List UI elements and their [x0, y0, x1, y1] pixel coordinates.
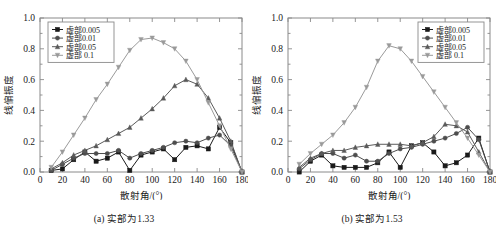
- x-tick-label: 120: [416, 175, 431, 185]
- data-point: [331, 164, 335, 168]
- legend-label: 虚部0.01: [436, 33, 466, 43]
- x-tick-label: 20: [58, 175, 68, 185]
- data-point: [398, 165, 402, 169]
- x-tick-label: 0: [286, 175, 291, 185]
- data-point: [116, 131, 121, 136]
- legend-label: 虚部 0.1: [66, 50, 94, 60]
- y-tick-label: 0.6: [23, 75, 35, 85]
- data-point: [161, 41, 166, 46]
- series-3: [297, 44, 492, 175]
- x-tick-label: 140: [438, 175, 453, 185]
- data-point: [342, 156, 346, 160]
- y-tick-label: 1.0: [23, 13, 35, 23]
- data-point: [161, 145, 165, 149]
- x-tick-label: 100: [145, 175, 160, 185]
- plot-area-a: 0204060801001201401601800.00.20.40.60.81…: [0, 0, 248, 200]
- x-tick-label: 100: [393, 175, 408, 185]
- x-tick-label: 140: [190, 175, 205, 185]
- legend-label: 虚部 0.1: [436, 50, 464, 60]
- data-point: [105, 156, 109, 160]
- x-tick-label: 0: [38, 175, 43, 185]
- y-axis-label: 线偏振度: [3, 75, 14, 115]
- data-point: [172, 83, 177, 88]
- series-2: [297, 122, 492, 174]
- data-point: [387, 151, 391, 155]
- x-tick-label: 180: [483, 175, 496, 185]
- y-tick-label: 0.4: [271, 106, 283, 116]
- x-tick-label: 180: [235, 175, 248, 185]
- data-point: [477, 138, 481, 142]
- series-2: [49, 77, 244, 174]
- data-point: [184, 77, 189, 82]
- data-point: [116, 148, 120, 152]
- legend-label: 虚部0.01: [66, 33, 96, 43]
- data-point: [94, 143, 99, 148]
- legend-label: 虚部0.005: [66, 25, 100, 35]
- data-point: [432, 139, 436, 143]
- data-point: [465, 153, 469, 157]
- y-tick-label: 0.0: [23, 167, 35, 177]
- legend-label: 虚部0.05: [66, 42, 96, 52]
- legend: 虚部0.005虚部0.01虚部0.05虚部 0.1: [418, 22, 484, 62]
- x-axis-label: 散射角/(°): [368, 190, 411, 200]
- legend-marker: [55, 27, 59, 31]
- legend-marker: [425, 27, 429, 31]
- x-tick-label: 80: [125, 175, 135, 185]
- x-tick-label: 40: [328, 175, 338, 185]
- legend-marker: [55, 36, 59, 40]
- y-tick-label: 0.8: [23, 44, 35, 54]
- data-point: [443, 164, 447, 168]
- data-point: [217, 116, 222, 121]
- data-point: [128, 156, 132, 160]
- data-point: [94, 159, 98, 163]
- chart-panel-b: 0204060801001201401601800.00.20.40.60.81…: [248, 0, 496, 235]
- series-line: [299, 127, 490, 172]
- data-point: [195, 78, 200, 83]
- panel-b-caption: (b) 实部为1.53: [248, 211, 496, 225]
- data-point: [465, 129, 470, 134]
- x-tick-label: 40: [80, 175, 90, 185]
- data-point: [364, 159, 368, 163]
- data-point: [398, 147, 402, 151]
- legend: 虚部0.005虚部0.01虚部0.05虚部 0.1: [48, 22, 114, 62]
- figure-container: 0204060801001201401601800.00.20.40.60.81…: [0, 0, 496, 235]
- data-point: [375, 59, 380, 64]
- x-tick-label: 60: [351, 175, 361, 185]
- series-line: [299, 124, 490, 172]
- y-tick-label: 0.0: [271, 167, 283, 177]
- y-tick-label: 0.8: [271, 44, 283, 54]
- plot-area-b: 0204060801001201401601800.00.20.40.60.81…: [248, 0, 496, 200]
- legend-marker: [425, 36, 429, 40]
- data-point: [206, 101, 211, 106]
- data-point: [364, 85, 369, 90]
- series-group: [297, 44, 492, 175]
- data-point: [376, 159, 380, 163]
- series-line: [51, 127, 242, 172]
- data-point: [173, 141, 177, 145]
- data-point: [195, 141, 199, 145]
- data-point: [139, 151, 143, 155]
- data-point: [60, 160, 65, 165]
- data-point: [465, 125, 469, 129]
- panel-a-caption: (a) 实部为1.33: [0, 211, 248, 225]
- x-axis-label: 散射角/(°): [120, 190, 163, 200]
- data-point: [432, 150, 436, 154]
- data-point: [353, 153, 357, 157]
- x-tick-label: 20: [306, 175, 316, 185]
- y-tick-label: 1.0: [271, 13, 283, 23]
- data-point: [454, 131, 458, 135]
- data-point: [217, 133, 221, 137]
- chart-svg-a: 0204060801001201401601800.00.20.40.60.81…: [0, 0, 248, 200]
- data-point: [105, 137, 110, 142]
- y-tick-label: 0.2: [23, 137, 35, 147]
- data-point: [94, 151, 98, 155]
- data-point: [206, 147, 210, 151]
- data-point: [128, 168, 132, 172]
- data-point: [105, 151, 109, 155]
- x-tick-label: 160: [460, 175, 475, 185]
- y-axis-label: 线偏振度: [251, 75, 262, 115]
- x-tick-label: 80: [373, 175, 383, 185]
- data-point: [443, 136, 447, 140]
- x-tick-label: 60: [103, 175, 113, 185]
- legend-label: 虚部0.05: [436, 42, 466, 52]
